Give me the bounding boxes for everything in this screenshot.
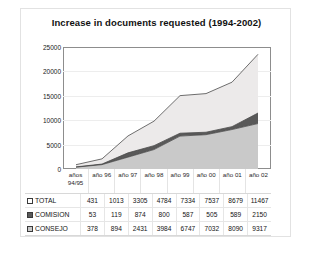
table-cell: 431 xyxy=(81,194,105,207)
table-cell: 3305 xyxy=(129,194,153,207)
table-cell: 894 xyxy=(105,222,129,235)
legend-swatch-icon xyxy=(27,198,33,204)
table-row: COMISION531198748005875055892150 xyxy=(25,208,271,222)
x-axis-category-2: año 97 xyxy=(115,169,141,193)
chart-title: Increase in documents requested (1994-20… xyxy=(21,17,292,28)
table-cell: 11467 xyxy=(248,194,271,207)
legend-label: COMISION xyxy=(35,211,69,218)
table-cell: 378 xyxy=(81,222,105,235)
table-cell: 9317 xyxy=(248,222,271,235)
legend-item-total: TOTAL xyxy=(25,194,81,207)
table-cell: 53 xyxy=(81,208,105,221)
table-cell: 119 xyxy=(105,208,129,221)
table-row: TOTAL43110133305478473347537867911467 xyxy=(25,194,271,208)
table-cell: 874 xyxy=(129,208,153,221)
table-cell: 7334 xyxy=(177,194,201,207)
table-cell: 7537 xyxy=(200,194,224,207)
y-axis-tick-label: 25000 xyxy=(23,44,61,51)
y-axis-tick-label: 20000 xyxy=(23,68,61,75)
table-cell: 800 xyxy=(153,208,177,221)
chart-figure: Increase in documents requested (1994-20… xyxy=(20,8,291,237)
table-cell: 8090 xyxy=(224,222,248,235)
y-axis-tick-label: 0 xyxy=(23,166,61,173)
y-axis: 2500020000150001000050000 xyxy=(21,47,61,169)
plot-area xyxy=(63,47,271,169)
table-cell: 7032 xyxy=(200,222,224,235)
table-cell: 587 xyxy=(177,208,201,221)
x-axis-category-4: año 99 xyxy=(168,169,194,193)
table-cell: 1013 xyxy=(105,194,129,207)
y-axis-tick-label: 10000 xyxy=(23,117,61,124)
x-axis-categories: años94/95año 96año 97año 98año 99año 00a… xyxy=(63,169,271,193)
table-cell: 8679 xyxy=(224,194,248,207)
table-cell: 3984 xyxy=(153,222,177,235)
table-row: CONSEJO378894243139846747703280909317 xyxy=(25,222,271,236)
table-cell: 589 xyxy=(224,208,248,221)
area-series-svg xyxy=(63,47,271,169)
x-axis-category-3: año 98 xyxy=(141,169,167,193)
x-axis-category-7: año 02 xyxy=(246,169,271,193)
legend-item-comision: COMISION xyxy=(25,208,81,221)
table-cell: 2431 xyxy=(129,222,153,235)
x-axis-category-1: año 96 xyxy=(89,169,115,193)
y-axis-tick-label: 15000 xyxy=(23,92,61,99)
data-table: TOTAL43110133305478473347537867911467COM… xyxy=(25,193,271,236)
legend-label: TOTAL xyxy=(35,197,56,204)
x-axis-category-5: año 00 xyxy=(194,169,220,193)
y-axis-tick-label: 5000 xyxy=(23,141,61,148)
x-axis-category-6: año 01 xyxy=(220,169,246,193)
legend-item-consejo: CONSEJO xyxy=(25,222,81,235)
legend-swatch-icon xyxy=(27,212,33,218)
x-axis-category-0: años94/95 xyxy=(63,169,89,193)
legend-swatch-icon xyxy=(27,226,33,232)
table-cell: 2150 xyxy=(248,208,271,221)
legend-label: CONSEJO xyxy=(35,225,68,232)
table-cell: 4784 xyxy=(153,194,177,207)
table-cell: 505 xyxy=(200,208,224,221)
table-cell: 6747 xyxy=(177,222,201,235)
